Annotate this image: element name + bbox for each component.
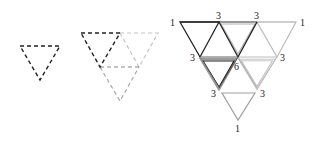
- vertex-label-top-mid-left: 3: [216, 10, 221, 21]
- triangle-diagram: 1 3 3 1 3 6 3 3 3 1: [0, 0, 320, 141]
- vertex-label-low-right: 3: [260, 88, 265, 99]
- vertex-label-center: 6: [234, 61, 239, 72]
- vertex-label-top-left: 1: [170, 17, 175, 28]
- light-dashed-triangle-bottom: [100, 67, 139, 101]
- vertex-label-low-left: 3: [211, 88, 216, 99]
- counted-triangle-grid: 1 3 3 1 3 6 3 3 3 1: [170, 10, 305, 134]
- vertex-label-bottom: 1: [235, 123, 240, 134]
- vertex-label-top-mid-right: 3: [254, 10, 259, 21]
- dark-dashed-triangle: [81, 33, 120, 67]
- dashed-triangle-group: [81, 33, 158, 101]
- light-dashed-triangle-right: [120, 33, 158, 67]
- single-dashed-triangle: [20, 46, 60, 80]
- vertex-label-mid-right: 3: [280, 52, 285, 63]
- vertex-label-top-right: 1: [300, 17, 305, 28]
- vertex-label-mid-left: 3: [190, 52, 195, 63]
